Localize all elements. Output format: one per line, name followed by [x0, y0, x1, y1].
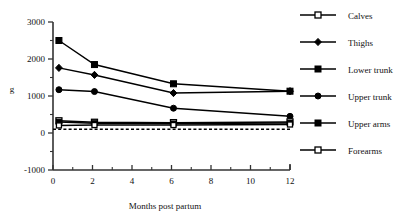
series-marker — [92, 123, 97, 128]
series-marker — [170, 81, 176, 87]
legend-marker — [315, 38, 322, 45]
series-marker — [56, 38, 62, 44]
x-tick-label: 0 — [51, 176, 56, 186]
legend-marker — [315, 93, 321, 99]
series-marker — [170, 89, 177, 96]
y-tick-label: 2000 — [27, 54, 46, 64]
y-tick-label: 3000 — [27, 17, 46, 27]
legend-marker — [315, 147, 321, 153]
x-tick-label: 6 — [169, 176, 174, 186]
series-marker — [170, 105, 176, 111]
x-axis-title: Months post partum — [129, 201, 202, 211]
legend-label: Forearms — [348, 146, 382, 156]
y-tick-label: 0 — [41, 128, 46, 138]
series-marker — [171, 123, 176, 128]
series-marker — [288, 122, 293, 127]
legend-marker — [315, 66, 321, 72]
y-axis-title: g — [10, 84, 15, 94]
legend-item-thighs[interactable]: Thighs — [300, 38, 373, 48]
legend-label: Calves — [348, 11, 373, 21]
x-tick-label: 12 — [286, 176, 295, 186]
series-marker — [91, 62, 97, 68]
plot-axes — [53, 22, 290, 170]
x-tick-label: 2 — [90, 176, 95, 186]
x-tick-label: 10 — [246, 176, 256, 186]
y-tick-label: 1000 — [27, 91, 46, 101]
tick-marks — [48, 22, 290, 170]
series-marker — [56, 123, 61, 128]
series-marker — [91, 89, 97, 95]
legend-label: Upper arms — [348, 119, 391, 129]
series-marker — [56, 64, 63, 71]
legend-item-calves[interactable]: Calves — [300, 11, 373, 21]
y-tick-label: -1000 — [24, 165, 45, 175]
x-tick-label: 8 — [209, 176, 214, 186]
legend-label: Thighs — [348, 38, 373, 48]
axis-tick-labels: -10000100020003000024681012 — [24, 17, 295, 186]
legend-item-forearms[interactable]: Forearms — [300, 146, 382, 156]
legend-label: Lower trunk — [348, 65, 393, 75]
legend-marker — [315, 12, 321, 18]
series-marker — [91, 71, 98, 78]
legend-marker — [315, 120, 321, 126]
legend-item-upper-trunk[interactable]: Upper trunk — [300, 92, 392, 102]
series-marker — [56, 87, 62, 93]
line-chart: -10000100020003000024681012 g Months pos… — [0, 0, 412, 222]
x-tick-label: 4 — [130, 176, 135, 186]
chart-container: -10000100020003000024681012 g Months pos… — [0, 0, 412, 222]
legend-item-upper-arms[interactable]: Upper arms — [300, 119, 391, 129]
chart-legend: CalvesThighsLower trunkUpper trunkUpper … — [300, 11, 393, 156]
legend-item-lower-trunk[interactable]: Lower trunk — [300, 65, 393, 75]
legend-label: Upper trunk — [348, 92, 392, 102]
